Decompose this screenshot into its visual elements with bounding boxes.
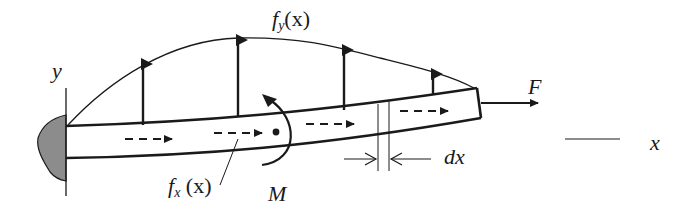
fx-leader-line (220, 139, 238, 185)
fixed-support-icon (38, 115, 66, 181)
fx-arg: (x) (180, 173, 211, 198)
fx-label: fx (x) (168, 175, 212, 200)
x-axis-label: x (650, 132, 660, 154)
fy-label: fy(x) (272, 8, 310, 33)
fx-arrows (125, 111, 448, 139)
fy-arg: (x) (284, 6, 310, 31)
dx-label: dx (444, 146, 465, 168)
force-F-label: F (528, 76, 541, 98)
moment-arrowhead-icon (262, 94, 277, 107)
beam-diagram (0, 0, 688, 215)
moment-label: M (268, 183, 286, 205)
beam-top-edge (66, 88, 477, 126)
fy-load-curve (68, 38, 474, 125)
moment-center-dot (273, 129, 280, 136)
beam-end-cap (477, 88, 481, 118)
y-axis-label: y (52, 60, 62, 82)
